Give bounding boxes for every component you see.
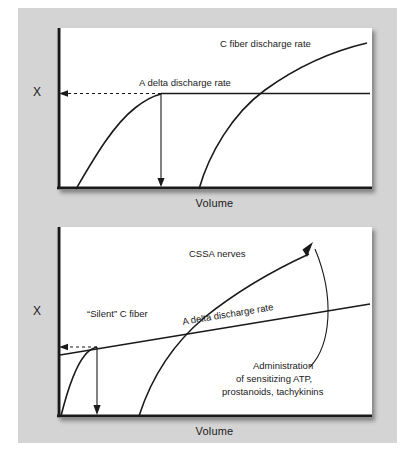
lower-y-axis-symbol: X [33, 304, 41, 318]
upper-chart-svg: C fiber discharge rate A delta discharge… [57, 28, 372, 190]
lower-annotation-curved-arrow [310, 249, 328, 367]
figure-container: C fiber discharge rate A delta discharge… [0, 0, 411, 456]
lower-x-axis-label: Volume [57, 425, 372, 437]
lower-vertical-arrowhead [93, 405, 100, 415]
lower-chart-svg: CSSA nerves “Silent” C fiber A delta dis… [57, 227, 372, 418]
upper-a-delta-curve [76, 94, 161, 189]
upper-y-axis-symbol: X [33, 85, 41, 99]
lower-chart-panel: CSSA nerves “Silent” C fiber A delta dis… [57, 227, 372, 418]
lower-cssa-label: CSSA nerves [189, 248, 246, 259]
lower-a-delta-label: A delta discharge rate [182, 301, 274, 327]
lower-silent-c-fiber-curve [61, 347, 97, 416]
lower-annotation-line-1: Administration [253, 360, 313, 371]
upper-c-fiber-label: C fiber discharge rate [220, 38, 311, 49]
lower-annotation-line-2: of sensitizing ATP, [236, 373, 312, 384]
lower-silent-c-label: “Silent” C fiber [87, 308, 148, 319]
upper-vertical-arrowhead [157, 178, 164, 187]
lower-cssa-arrowhead [303, 242, 314, 257]
upper-x-axis-label: Volume [57, 197, 372, 209]
upper-c-fiber-curve [199, 43, 367, 189]
upper-chart-panel: C fiber discharge rate A delta discharge… [57, 28, 372, 190]
lower-annotation-line-3: prostanoids, tachykinins [222, 386, 324, 397]
upper-a-delta-label: A delta discharge rate [139, 77, 231, 88]
